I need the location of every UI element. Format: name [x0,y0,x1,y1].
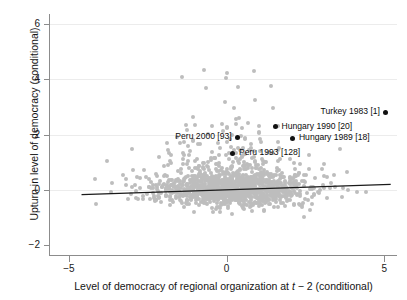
highlighted-point [235,135,240,140]
y-axis-label: Upturn in level of democracy (conditiona… [28,4,40,244]
scatter-plot-figure: Upturn in level of democracy (conditiona… [0,0,407,300]
y-tick-label: −2 [18,240,40,250]
x-tick [227,256,228,262]
y-tick-label: 4 [18,74,40,84]
y-tick-label: 2 [18,130,40,140]
x-tick-label: 5 [372,264,396,274]
x-axis-label: Level of democracy of regional organizat… [50,280,397,292]
x-tick [384,256,385,262]
x-tick-label: 0 [215,264,239,274]
point-annotation: Turkey 1983 [1] [321,107,380,116]
y-tick-label: 6 [18,19,40,29]
x-tick-label: −5 [57,264,81,274]
point-annotation: Peru 2000 [93] [175,132,231,141]
x-axis-line [49,255,397,256]
point-annotation: Hungary 1989 [18] [299,133,370,142]
x-tick [69,256,70,262]
plot-area: Turkey 1983 [1]Hungary 1990 [20]Hungary … [50,14,397,255]
point-annotation: Peru 1993 [128] [239,148,300,157]
point-annotation: Hungary 1990 [20] [282,122,353,131]
y-tick-label: 0 [18,185,40,195]
